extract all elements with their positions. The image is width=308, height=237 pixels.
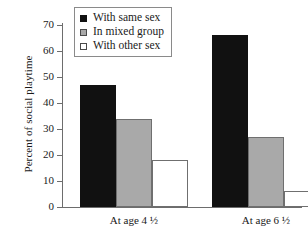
legend-label: With same sex xyxy=(93,12,160,24)
legend-item: In mixed group xyxy=(80,25,164,39)
y-axis-tick-label: 40 xyxy=(14,97,54,108)
legend: With same sex In mixed group With other … xyxy=(74,7,172,57)
y-axis-tick-label: 10 xyxy=(14,175,54,186)
bar xyxy=(152,160,188,207)
y-axis-tick xyxy=(57,207,62,208)
y-axis-tick-label: 50 xyxy=(14,71,54,82)
bar xyxy=(284,191,308,207)
x-axis-group-label: At age 6 ½ xyxy=(206,214,308,226)
bar xyxy=(212,35,248,207)
legend-swatch-with-other-sex-icon xyxy=(80,43,87,50)
bar-chart: Percent of social playtime 0102030405060… xyxy=(0,0,308,237)
x-axis-line xyxy=(62,207,302,208)
legend-label: With other sex xyxy=(93,40,160,52)
x-axis-group-label: At age 4 ½ xyxy=(74,214,194,226)
legend-swatch-in-mixed-group-icon xyxy=(80,29,87,36)
y-axis-title: Percent of social playtime xyxy=(22,34,34,194)
y-axis-tick-label: 60 xyxy=(14,45,54,56)
legend-item: With other sex xyxy=(80,39,164,53)
y-axis-tick-label: 70 xyxy=(14,19,54,30)
bar xyxy=(248,137,284,207)
bar xyxy=(80,85,116,207)
legend-item: With same sex xyxy=(80,11,164,25)
bar xyxy=(116,119,152,207)
legend-swatch-with-same-sex-icon xyxy=(80,15,87,22)
legend-label: In mixed group xyxy=(93,26,164,38)
y-axis-tick-label: 30 xyxy=(14,123,54,134)
y-axis-tick-label: 20 xyxy=(14,149,54,160)
y-axis-tick-label: 0 xyxy=(14,201,54,212)
